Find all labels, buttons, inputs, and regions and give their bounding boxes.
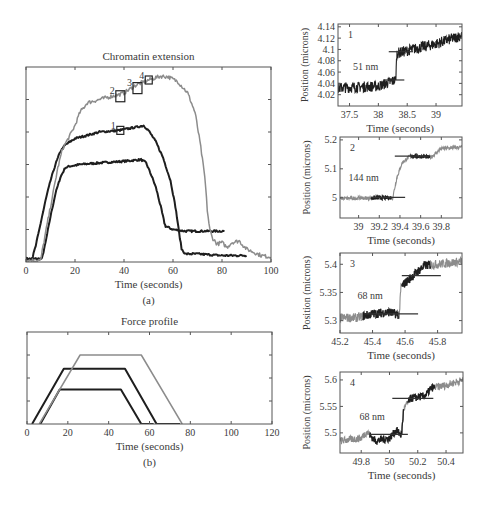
x-tick-label: 39.4 bbox=[391, 221, 409, 232]
x-tick-label: 0 bbox=[24, 265, 29, 276]
y-tick-label: 5.5 bbox=[325, 427, 338, 438]
y-tick-label: 5.4 bbox=[325, 259, 338, 270]
x-tick-label: 45.4 bbox=[364, 336, 382, 347]
y-tick-label: 5.1 bbox=[325, 163, 338, 174]
panel-number: 3 bbox=[350, 258, 355, 269]
step-segment-0 bbox=[363, 309, 399, 320]
x-tick-label: 60 bbox=[168, 265, 178, 276]
chart-a: 1234020406080100Time (seconds)Chromatin … bbox=[24, 50, 279, 307]
step-segment-1 bbox=[402, 261, 431, 288]
zoom-box-label-3: 3 bbox=[127, 77, 132, 88]
step-segment-1 bbox=[408, 385, 435, 403]
x-axis-label: Time (seconds) bbox=[366, 122, 434, 135]
chart-1: 151 nm37.53838.5394.024.044.064.084.14.1… bbox=[299, 21, 462, 135]
x-tick-label: 45.2 bbox=[331, 336, 349, 347]
x-tick-label: 60 bbox=[145, 427, 155, 438]
x-tick-label: 80 bbox=[185, 427, 195, 438]
y-tick-label: 4.14 bbox=[318, 21, 336, 32]
x-tick-label: 38 bbox=[373, 109, 383, 120]
panel-label: (b) bbox=[143, 456, 156, 469]
x-tick-label: 40 bbox=[119, 265, 129, 276]
x-tick-label: 37.5 bbox=[341, 109, 359, 120]
y-tick-label: 5.35 bbox=[320, 287, 338, 298]
x-tick-label: 50 bbox=[384, 456, 394, 467]
x-tick-label: 120 bbox=[265, 427, 280, 438]
chart-title: Force profile bbox=[121, 315, 178, 327]
y-tick-label: 5.55 bbox=[320, 401, 338, 412]
chart-b: 020406080100120Time (seconds)Force profi… bbox=[25, 315, 280, 469]
y-tick-label: 4.1 bbox=[323, 44, 336, 55]
x-tick-label: 40 bbox=[104, 427, 114, 438]
y-axis-label: Position (microns) bbox=[299, 28, 311, 102]
x-tick-label: 100 bbox=[264, 265, 279, 276]
y-tick-label: 5 bbox=[332, 192, 337, 203]
x-tick-label: 20 bbox=[70, 265, 80, 276]
zoom-box-label-2: 2 bbox=[110, 85, 115, 96]
x-axis-label: Time (seconds) bbox=[367, 349, 435, 362]
zoom-box-label-1: 1 bbox=[111, 120, 116, 131]
y-tick-label: 5.3 bbox=[325, 315, 338, 326]
x-axis-label: Time (seconds) bbox=[367, 234, 435, 247]
series-line-0 bbox=[26, 159, 225, 260]
panel-label: (a) bbox=[142, 294, 155, 307]
step-size-label: 144 nm bbox=[349, 172, 380, 183]
plot-frame bbox=[26, 67, 271, 262]
chart-2: 2144 nm3939.239.439.639.855.15.2Time (se… bbox=[301, 134, 462, 247]
series-line-1 bbox=[32, 369, 180, 424]
x-tick-label: 39.8 bbox=[433, 221, 451, 232]
panel-number: 1 bbox=[348, 29, 353, 40]
x-tick-label: 0 bbox=[25, 427, 30, 438]
x-axis-label: Time (seconds) bbox=[116, 440, 184, 453]
y-tick-label: 4.06 bbox=[318, 67, 336, 78]
x-tick-label: 38.5 bbox=[398, 109, 416, 120]
step-size-label: 68 nm bbox=[360, 411, 386, 422]
plot-area bbox=[340, 377, 463, 444]
x-tick-label: 80 bbox=[217, 265, 227, 276]
y-tick-label: 4.08 bbox=[318, 55, 336, 66]
x-tick-label: 49.8 bbox=[352, 456, 370, 467]
y-axis-label: Position (microns) bbox=[301, 256, 313, 330]
chart-4: 468 nm49.85050.250.45.55.555.6Time (seco… bbox=[301, 372, 463, 482]
plot-area bbox=[32, 355, 182, 424]
x-tick-label: 50.4 bbox=[437, 456, 455, 467]
x-axis-label: Time (seconds) bbox=[115, 278, 183, 291]
x-tick-label: 39 bbox=[431, 109, 441, 120]
y-tick-label: 5.2 bbox=[325, 134, 338, 145]
figure-canvas: 1234020406080100Time (seconds)Chromatin … bbox=[0, 0, 490, 505]
zoom-box-label-4: 4 bbox=[139, 70, 144, 81]
x-tick-label: 45.8 bbox=[429, 336, 447, 347]
step-size-label: 51 nm bbox=[353, 61, 379, 72]
y-tick-label: 4.04 bbox=[318, 78, 336, 89]
y-axis-label: Position (microns) bbox=[301, 140, 313, 214]
x-tick-label: 100 bbox=[224, 427, 239, 438]
x-tick-label: 50.2 bbox=[409, 456, 427, 467]
panel-number: 4 bbox=[350, 377, 355, 388]
y-tick-label: 5.6 bbox=[325, 374, 338, 385]
panel-number: 2 bbox=[350, 142, 355, 153]
x-tick-label: 39.6 bbox=[412, 221, 430, 232]
chart-3: 368 nm45.245.445.645.85.35.355.4Time (se… bbox=[301, 253, 462, 362]
x-tick-label: 39 bbox=[354, 221, 364, 232]
plot-area bbox=[26, 75, 271, 262]
y-tick-label: 4.12 bbox=[318, 33, 336, 44]
x-tick-label: 20 bbox=[63, 427, 73, 438]
step-size-label: 68 nm bbox=[358, 290, 384, 301]
y-axis-label: Position (microns) bbox=[301, 375, 313, 449]
chart-title: Chromatin extension bbox=[103, 50, 195, 62]
x-tick-label: 45.6 bbox=[396, 336, 414, 347]
x-axis-label: Time (seconds) bbox=[368, 469, 436, 482]
y-tick-label: 4.02 bbox=[318, 89, 336, 100]
x-tick-label: 39.2 bbox=[371, 221, 389, 232]
